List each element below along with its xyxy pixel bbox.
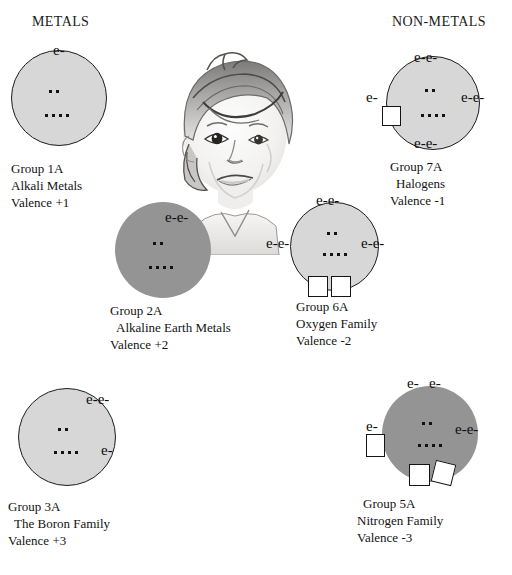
atom-group-2a: e-e- Group 2A Alkaline Earth Metals Vale… (115, 196, 225, 296)
electron-label-top-1a: e- (53, 43, 65, 58)
group-name-7a: Group 7A (390, 158, 445, 175)
atom-group-3a: e-e- e- Group 3A The Boron Family Valenc… (18, 384, 148, 490)
electron-label-upper-right-3a: e-e- (86, 392, 109, 407)
empty-valence-slot-5a-2 (409, 464, 430, 486)
electron-label-left-6a: e-e- (266, 236, 289, 251)
electron-label-right-6a: e-e- (361, 236, 384, 251)
valence-3a: Valence +3 (8, 532, 110, 549)
nonmetals-heading: NON-METALS (392, 14, 486, 30)
group-name-2a: Group 2A (110, 302, 231, 319)
electron-label-right-5a: e-e- (455, 422, 478, 437)
electron-label-left-5a: e- (366, 419, 378, 434)
group-name-3a: Group 3A (8, 498, 110, 515)
caption-group-6a: Group 6A Oxygen Family Valence -2 (296, 298, 377, 349)
atom-group-6a: e-e- e-e- e-e- Group 6A Oxygen Family Va… (268, 192, 408, 302)
electron-label-left-7a: e- (366, 90, 378, 105)
caption-group-5a: Group 5A Nitrogen Family Valence -3 (357, 495, 443, 546)
atom-group-5a: e- e- e- e-e- Group 5A Nitrogen Family V… (352, 376, 502, 492)
valence-2a: Valence +2 (110, 336, 231, 353)
electron-label-top-right-5a: e- (429, 376, 441, 391)
electron-label-top-right-2a: e-e- (165, 210, 188, 225)
family-name-6a: Oxygen Family (296, 315, 377, 332)
caption-group-1a: Group 1A Alkali Metals Valence +1 (11, 160, 82, 211)
family-name-5a: Nitrogen Family (357, 512, 443, 529)
empty-valence-slot-5a-3 (431, 460, 457, 486)
electron-shell-1a (11, 50, 107, 146)
atom-group-1a: e- Group 1A Alkali Metals Valence +1 (8, 42, 128, 152)
family-name-7a: Halogens (390, 175, 445, 192)
family-name-3a: The Boron Family (8, 515, 110, 532)
group-name-6a: Group 6A (296, 298, 377, 315)
atom-group-7a: e-e- e- e-e- e-e- Group 7A Halogens Vale… (366, 48, 506, 158)
family-name-1a: Alkali Metals (11, 177, 82, 194)
electron-label-top-6a: e-e- (316, 193, 339, 208)
empty-valence-slot-5a-1 (366, 434, 385, 457)
caption-group-2a: Group 2A Alkaline Earth Metals Valence +… (110, 302, 231, 353)
valence-6a: Valence -2 (296, 332, 377, 349)
family-name-2a: Alkaline Earth Metals (110, 319, 231, 336)
empty-valence-slot-6a-1 (308, 276, 328, 297)
electron-label-top-7a: e-e- (414, 50, 437, 65)
metals-heading: METALS (32, 14, 89, 30)
group-name-1a: Group 1A (11, 160, 82, 177)
electron-label-bottom-7a: e-e- (414, 136, 437, 151)
empty-valence-slot-7a-1 (382, 106, 401, 126)
electron-shell-2a (115, 202, 211, 298)
group-name-5a: Group 5A (357, 495, 443, 512)
electron-label-top-left-5a: e- (407, 376, 419, 391)
electron-label-lower-right-3a: e- (101, 443, 113, 458)
electron-label-right-7a: e-e- (461, 90, 484, 105)
diagram-page: METALS NON-METALS (0, 0, 512, 575)
valence-1a: Valence +1 (11, 194, 82, 211)
caption-group-3a: Group 3A The Boron Family Valence +3 (8, 498, 110, 549)
valence-5a: Valence -3 (357, 529, 443, 546)
empty-valence-slot-6a-2 (331, 276, 351, 297)
